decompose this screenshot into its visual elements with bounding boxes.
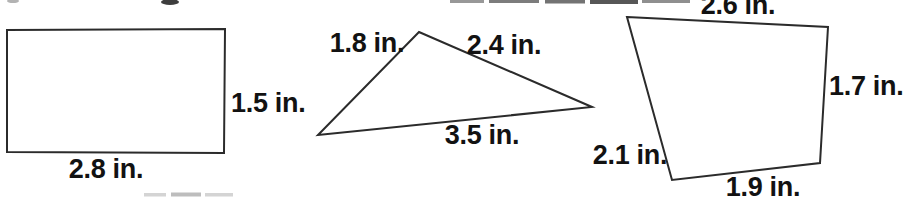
scan-artifact — [489, 0, 539, 3]
quadrilateral-shape: 2.6 in. 1.7 in. 2.1 in. 1.9 in. — [593, 0, 903, 197]
triangle-shape: 1.8 in. 2.4 in. 3.5 in. — [318, 28, 592, 150]
quadrilateral-top-side-label: 2.6 in. — [701, 0, 775, 20]
rectangle-outline — [7, 29, 225, 153]
scan-artifact — [450, 0, 484, 3]
quadrilateral-bottom-side-label: 1.9 in. — [726, 172, 800, 197]
scan-artifact — [171, 193, 201, 197]
scan-artifact — [642, 0, 690, 3]
triangle-bottom-side-label: 3.5 in. — [445, 120, 519, 150]
quadrilateral-bottom-left-side-label: 2.1 in. — [593, 140, 667, 170]
worksheet-scan: 1.5 in. 2.8 in. 1.8 in. 2.4 in. 3.5 in. … — [0, 0, 903, 197]
triangle-top-right-side-label: 2.4 in. — [467, 30, 541, 60]
rectangle-right-side-label: 1.5 in. — [231, 88, 305, 118]
scan-artifact — [7, 0, 19, 3]
scan-artifact — [545, 0, 585, 4]
scan-artifact — [161, 0, 179, 5]
quadrilateral-right-side-label: 1.7 in. — [829, 71, 903, 101]
triangle-top-left-side-label: 1.8 in. — [330, 28, 404, 58]
scan-artifact — [590, 0, 638, 4]
scan-artifact — [205, 193, 233, 197]
scan-artifact — [144, 193, 166, 197]
rectangle-bottom-side-label: 2.8 in. — [69, 154, 143, 184]
shapes-figure: 1.5 in. 2.8 in. 1.8 in. 2.4 in. 3.5 in. … — [0, 0, 903, 197]
rectangle-shape: 1.5 in. 2.8 in. — [7, 29, 305, 184]
